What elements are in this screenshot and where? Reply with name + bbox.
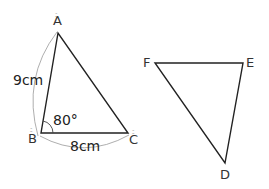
- angle-b-arc: [43, 121, 53, 133]
- diagram-canvas: A B C ﾆ ﾆ ﾆ 9cm 8cm 80° F E D: [0, 0, 269, 189]
- vertex-f-label: F: [143, 55, 150, 70]
- vertex-c-label: C: [129, 132, 138, 147]
- tick-mark-c: ﾆ: [132, 128, 135, 134]
- vertex-d-label: D: [220, 167, 230, 182]
- vertex-b-label: B: [28, 131, 37, 146]
- side-bc-length: 8cm: [70, 138, 100, 154]
- vertex-e-label: E: [246, 55, 254, 70]
- triangle-def: F E D: [143, 55, 254, 182]
- triangle-abc: A B C ﾆ ﾆ ﾆ 9cm 8cm 80°: [13, 11, 138, 154]
- tick-mark-a: ﾆ: [55, 11, 58, 17]
- side-ab-length: 9cm: [13, 72, 43, 88]
- tick-mark-b: ﾆ: [30, 126, 33, 132]
- triangle-def-shape: [155, 63, 243, 163]
- angle-b-measure: 80°: [53, 112, 78, 128]
